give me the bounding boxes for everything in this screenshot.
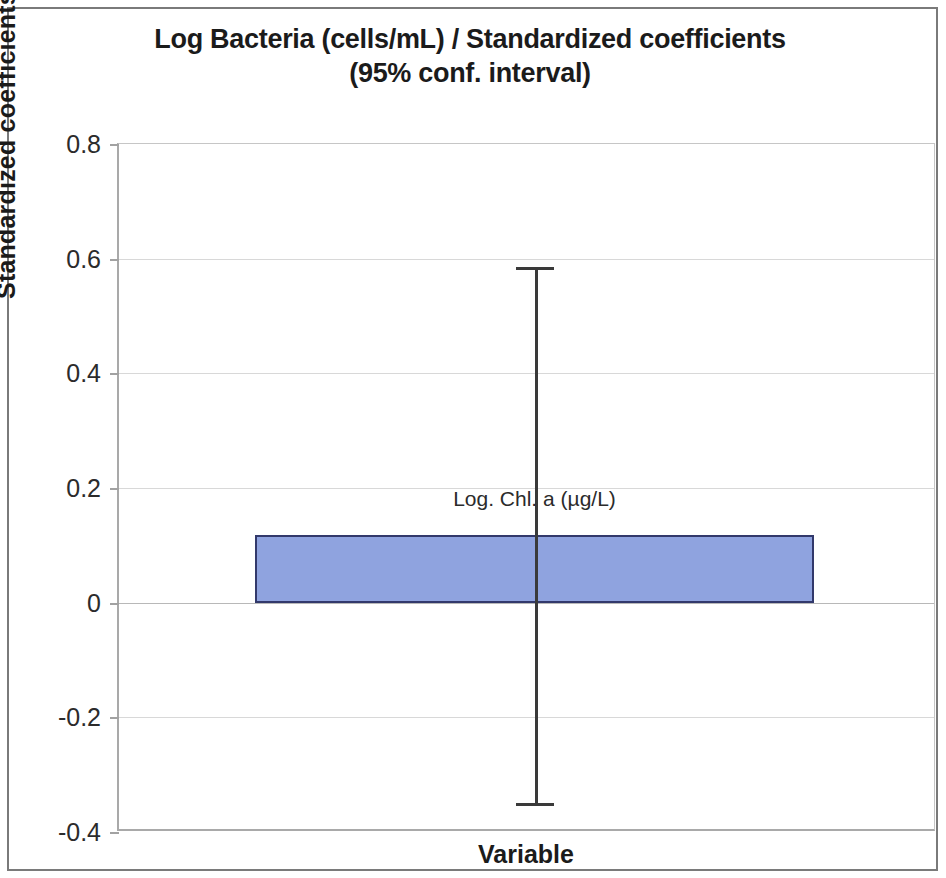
chart-title-line1: Log Bacteria (cells/mL) / Standardized c…	[154, 24, 785, 54]
y-axis-tick-mark	[110, 832, 119, 834]
y-axis-tick-label: -0.4	[1, 818, 101, 847]
y-axis-tick-label: 0.4	[1, 359, 101, 388]
chart-title: Log Bacteria (cells/mL) / Standardized c…	[90, 22, 850, 90]
error-bar-cap-lower	[516, 803, 554, 806]
y-axis-title: Standardized coefficients	[0, 0, 21, 355]
x-axis-title: Variable	[117, 840, 935, 869]
gridline	[119, 373, 934, 374]
y-axis-tick-label: 0.6	[1, 244, 101, 273]
gridline	[119, 717, 934, 718]
y-axis-tick-mark	[110, 717, 119, 719]
gridline	[119, 259, 934, 260]
y-axis-tick-mark	[110, 488, 119, 490]
error-bar-cap-upper	[516, 267, 554, 270]
y-axis-tick-label: 0.8	[1, 130, 101, 159]
chart-title-line2: (95% conf. interval)	[90, 56, 850, 90]
chart-figure: Log Bacteria (cells/mL) / Standardized c…	[0, 0, 946, 878]
y-axis-tick-label: 0	[1, 588, 101, 617]
data-point-label: Log. Chl. a (µg/L)	[453, 487, 616, 511]
y-axis-tick-label: -0.2	[1, 703, 101, 732]
zero-line	[119, 603, 934, 604]
error-bar-line	[535, 267, 538, 803]
y-axis-tick-mark	[110, 144, 119, 146]
plot-area: 0.80.60.40.20-0.2-0.4Log. Chl. a (µg/L)	[117, 143, 935, 831]
y-axis-tick-mark	[110, 373, 119, 375]
y-axis-tick-mark	[110, 603, 119, 605]
y-axis-tick-mark	[110, 259, 119, 261]
y-axis-tick-label: 0.2	[1, 474, 101, 503]
